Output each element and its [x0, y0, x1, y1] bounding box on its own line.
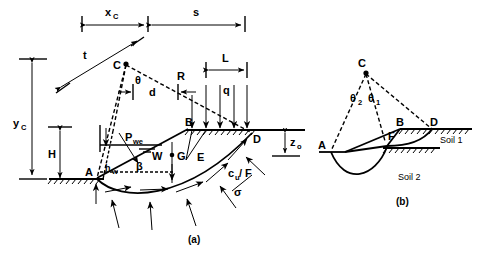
label-L: L [222, 52, 229, 64]
arc-A-F [331, 147, 387, 174]
point-label-C: C [113, 59, 121, 71]
label-hw-subscript: w [111, 167, 118, 176]
caption-b: (b) [396, 196, 409, 207]
point-label-D: D [253, 133, 261, 145]
label-cu: c [228, 167, 234, 179]
tangential-arrow-5 [228, 139, 247, 160]
soil-interface-b [383, 148, 440, 153]
point-label-A-b: A [318, 139, 326, 151]
radius-CF-b [366, 74, 385, 141]
yc-dimension-group: y C [13, 59, 47, 179]
label-R: R [177, 70, 185, 82]
panel-b: C θ 1 θ 2 B D [318, 57, 472, 207]
slope-stability-figure: x C s t y C H [0, 0, 493, 255]
label-Pwe: P [125, 131, 132, 143]
normal-arrow-4 [187, 199, 196, 226]
point-label-A: A [85, 166, 93, 178]
label-theta1-subscript: 1 [376, 98, 380, 107]
tick-t-upper [131, 37, 144, 46]
label-zo-subscript: o [297, 142, 302, 151]
tick-t-lower [56, 83, 70, 93]
label-xc: x [105, 6, 112, 18]
ground-surface-crest-b: B D [396, 116, 472, 134]
label-theta2: θ [350, 92, 356, 104]
H-dimension-group: H [48, 127, 72, 178]
caption-a: (a) [188, 234, 200, 245]
label-cu-rest: / F [239, 167, 252, 179]
shear-resistance-arrows [105, 139, 247, 192]
centroid-marker [170, 153, 175, 158]
label-d: d [149, 86, 156, 98]
label-yc-subscript: C [21, 123, 27, 132]
point-label-D-b: D [430, 116, 438, 128]
failure-wedge-b: A F [318, 129, 432, 174]
strength-labels-group: c u / F σ [228, 167, 252, 198]
label-q: q [223, 84, 230, 96]
radius-CA-b [331, 74, 366, 151]
label-zo: z [290, 136, 296, 148]
tangential-arrow-4 [206, 163, 228, 182]
zo-dimension-group: z o [272, 130, 302, 156]
figure-canvas: x C s t y C H [0, 0, 493, 255]
label-Pwe-subscript: we [132, 137, 143, 146]
weight-forces-group: W G E [152, 142, 204, 180]
normal-arrow-3 [150, 202, 152, 230]
label-theta: θ [135, 74, 141, 86]
radius-C-crest [113, 65, 126, 131]
point-label-F-b: F [388, 130, 395, 142]
d-dimension-group: d [118, 84, 196, 100]
panel-a: x C s t y C H [13, 6, 305, 245]
label-soil-1: Soil 1 [440, 135, 463, 145]
label-E: E [197, 151, 204, 163]
label-xc-subscript: C [113, 12, 119, 21]
ground-surface-toe: A [48, 166, 104, 184]
radius-CA [97, 65, 126, 178]
label-theta2-subscript: 2 [358, 98, 362, 107]
normal-arrow-2 [112, 200, 119, 228]
label-yc: y [13, 117, 20, 129]
point-label-B-b: B [396, 116, 404, 128]
t-dimension-group: t [56, 37, 144, 93]
top-dimension-group: x C s [82, 6, 245, 32]
label-H: H [48, 148, 56, 160]
surcharge-q-group: q [192, 84, 247, 128]
label-G: G [177, 150, 186, 162]
label-soil-2: Soil 2 [398, 172, 421, 182]
L-dimension-group: L [206, 52, 247, 78]
label-W: W [152, 150, 163, 162]
label-s: s [193, 6, 199, 18]
label-t: t [83, 49, 87, 61]
point-C-marker [123, 61, 128, 66]
slip-surface-arc [97, 133, 252, 193]
label-theta1: θ [368, 92, 374, 104]
label-hw: h [105, 163, 111, 173]
point-label-C-b: C [358, 57, 366, 69]
centre-C-group: C θ R [97, 59, 252, 178]
